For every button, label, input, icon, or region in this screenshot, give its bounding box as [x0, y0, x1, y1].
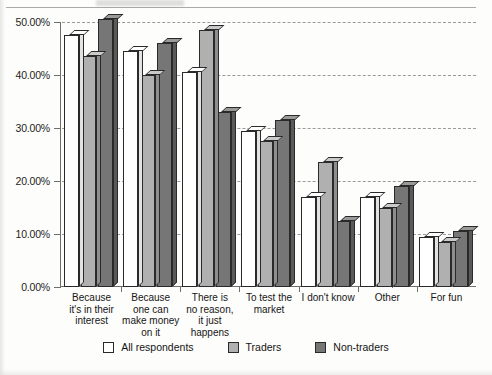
- bar-group: [239, 22, 298, 287]
- x-axis-category-label: Because one can make money on it: [121, 292, 180, 338]
- bar-side-face: [79, 30, 84, 287]
- bar-side-face: [333, 158, 338, 287]
- bar-group: [121, 22, 180, 287]
- x-axis-tick: [417, 287, 418, 292]
- legend-label: Non-traders: [333, 341, 388, 353]
- bar: [123, 51, 138, 287]
- bar-side-face: [113, 15, 118, 287]
- x-axis-category-label: There is no reason, it just happens: [180, 292, 239, 338]
- y-axis-tick-label: 20.00%: [16, 175, 50, 187]
- bar-side-face: [350, 216, 355, 287]
- legend-item[interactable]: All respondents: [103, 341, 193, 353]
- bar-side-face: [273, 136, 278, 287]
- bar-front-face: [182, 72, 197, 287]
- x-axis-tick: [180, 287, 181, 292]
- bar-side-face: [375, 192, 380, 287]
- scanned-page: 0.00%10.00%20.00%30.00%40.00%50.00% Beca…: [0, 0, 492, 375]
- bar-side-face: [409, 181, 414, 287]
- bar-side-face: [231, 107, 236, 287]
- chart-legend: All respondentsTradersNon-traders: [0, 341, 492, 353]
- bar-front-face: [64, 35, 79, 287]
- bar: [301, 197, 316, 287]
- bar-top-face: [69, 30, 90, 35]
- bar-side-face: [96, 52, 101, 287]
- bar: [182, 72, 197, 287]
- bar-side-face: [468, 227, 473, 287]
- bar-top-face: [103, 14, 124, 19]
- legend-item[interactable]: Traders: [228, 341, 282, 353]
- bar: [241, 131, 256, 287]
- bar: [360, 197, 375, 287]
- bar-group: [417, 22, 476, 287]
- y-axis-tick: [54, 128, 61, 129]
- y-axis-tick: [54, 234, 61, 235]
- bar-side-face: [290, 115, 295, 287]
- bar-side-face: [256, 126, 261, 287]
- bar-side-face: [155, 70, 160, 287]
- bar-front-face: [419, 237, 434, 287]
- y-axis-tick: [54, 22, 61, 23]
- legend-swatch: [103, 342, 114, 353]
- x-axis-tick: [358, 287, 359, 292]
- x-axis-category-label: To test the market: [239, 292, 298, 315]
- bar-top-face: [365, 192, 386, 197]
- bar-side-face: [451, 237, 456, 287]
- bar-top-face: [128, 46, 149, 51]
- x-axis-category-label: Other: [358, 292, 417, 304]
- legend-swatch: [315, 342, 326, 353]
- bar-front-face: [241, 131, 256, 287]
- bar-top-face: [204, 25, 225, 30]
- bar-front-face: [123, 51, 138, 287]
- bar-side-face: [316, 192, 321, 287]
- bar: [64, 35, 79, 287]
- bar-group: [62, 22, 121, 287]
- bar-top-face: [424, 232, 445, 237]
- bar-side-face: [214, 25, 219, 287]
- y-axis-tick-label: 0.00%: [21, 281, 50, 293]
- bar-top-face: [323, 157, 344, 162]
- y-axis-tick-label: 50.00%: [16, 16, 50, 28]
- legend-item[interactable]: Non-traders: [315, 341, 388, 353]
- bar-group: [358, 22, 417, 287]
- bar-side-face: [434, 232, 439, 287]
- x-axis-category-label: For fun: [417, 292, 476, 304]
- grouped-bar-chart: 0.00%10.00%20.00%30.00%40.00%50.00% Beca…: [0, 0, 492, 375]
- x-axis-tick: [299, 287, 300, 292]
- bar-side-face: [197, 68, 202, 287]
- x-axis-tick: [239, 287, 240, 292]
- y-axis-tick-label: 10.00%: [16, 228, 50, 240]
- y-axis-line: [60, 22, 61, 287]
- y-axis-tick-label: 30.00%: [16, 122, 50, 134]
- x-axis-tick: [121, 287, 122, 292]
- bar-top-face: [458, 226, 479, 231]
- y-axis-tick: [54, 287, 61, 288]
- bar-group: [180, 22, 239, 287]
- bar-top-face: [246, 126, 267, 131]
- legend-label: All respondents: [121, 341, 193, 353]
- plot-area: 0.00%10.00%20.00%30.00%40.00%50.00%: [62, 22, 476, 287]
- bar-front-face: [360, 197, 375, 287]
- bar-front-face: [301, 197, 316, 287]
- y-axis-tick: [54, 181, 61, 182]
- bar: [419, 237, 434, 287]
- y-axis-tick: [54, 75, 61, 76]
- bar-group: [299, 22, 358, 287]
- bar-side-face: [392, 203, 397, 287]
- y-axis-tick-label: 40.00%: [16, 69, 50, 81]
- legend-label: Traders: [246, 341, 282, 353]
- x-axis-category-label: I don't know: [299, 292, 358, 304]
- bar-side-face: [172, 38, 177, 287]
- x-axis-category-label: Because it's in their interest: [62, 292, 121, 327]
- legend-swatch: [228, 342, 239, 353]
- bar-side-face: [138, 46, 143, 287]
